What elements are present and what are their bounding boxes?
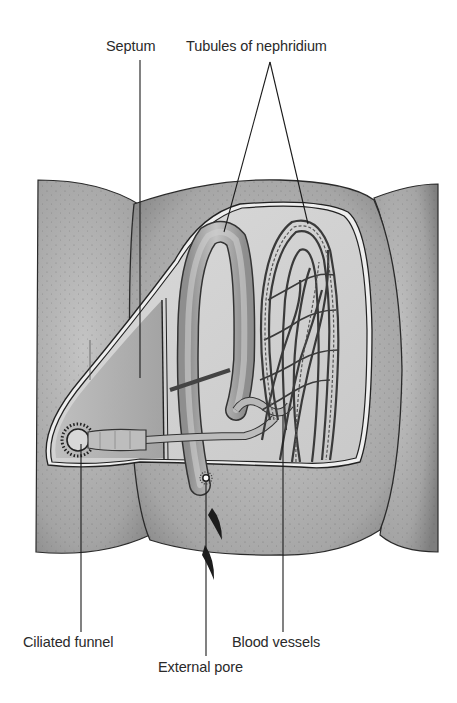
label-tubules-of-nephridium: Tubules of nephridium (186, 38, 327, 54)
label-external-pore: External pore (158, 659, 243, 675)
nephridium-illustration (0, 0, 457, 703)
label-ciliated-funnel: Ciliated funnel (23, 634, 113, 650)
label-blood-vessels: Blood vessels (232, 634, 320, 650)
label-septum: Septum (106, 38, 155, 54)
